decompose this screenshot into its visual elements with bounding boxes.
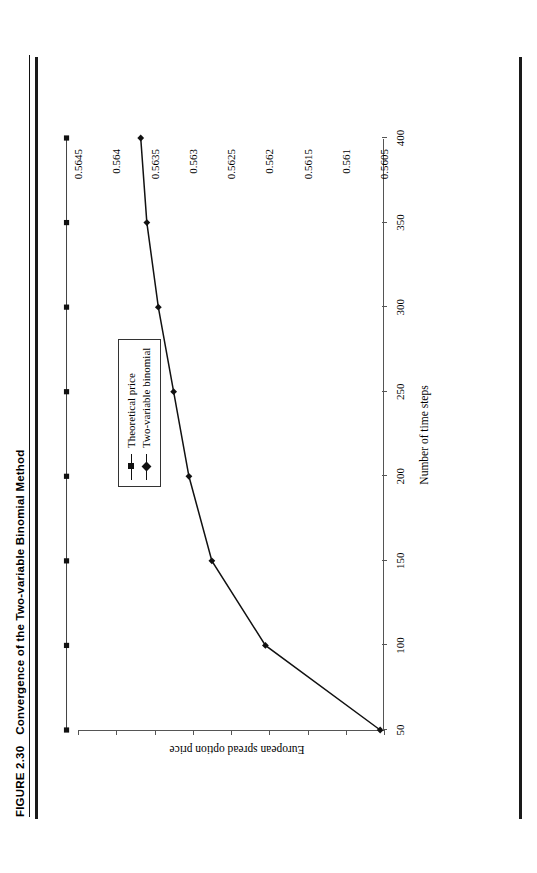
y-tick xyxy=(116,730,117,735)
legend-item: Two-variable binomial xyxy=(139,348,154,480)
y-tick xyxy=(78,730,79,735)
y-tick xyxy=(269,730,270,735)
data-point-diamond xyxy=(186,473,193,480)
data-point-square xyxy=(64,389,69,394)
y-tick xyxy=(231,730,232,735)
data-point-square xyxy=(64,643,69,648)
x-tick xyxy=(382,391,387,392)
data-point-diamond xyxy=(143,219,150,226)
legend-label: Two-variable binomial xyxy=(139,348,154,448)
y-tick-label: 0.5625 xyxy=(225,149,237,179)
page-rule-right xyxy=(519,57,522,819)
square-marker-icon xyxy=(127,454,137,480)
data-point-diamond xyxy=(155,304,162,311)
figure-container: FIGURE 2.30 Convergence of the Two-varia… xyxy=(0,55,452,817)
x-tick-label: 400 xyxy=(394,130,406,147)
x-tick xyxy=(382,137,387,138)
y-tick-label: 0.5645 xyxy=(72,149,84,179)
y-tick xyxy=(193,730,194,735)
y-tick-label: 0.564 xyxy=(110,149,122,174)
series-line-1 xyxy=(141,138,380,730)
data-point-diamond xyxy=(170,388,177,395)
data-point-square xyxy=(64,135,69,140)
y-tick xyxy=(384,730,385,735)
data-point-square xyxy=(64,558,69,563)
x-tick xyxy=(382,222,387,223)
figure-number: FIGURE 2.30 xyxy=(14,746,26,817)
x-axis-title: Number of time steps xyxy=(418,139,430,731)
legend-label: Theoretical price xyxy=(124,373,139,448)
x-tick-label: 250 xyxy=(394,383,406,400)
data-point-square xyxy=(64,727,69,732)
legend-item: Theoretical price xyxy=(124,348,139,480)
y-tick xyxy=(308,730,309,735)
data-point-square xyxy=(64,305,69,310)
x-tick xyxy=(382,475,387,476)
figure-caption: FIGURE 2.30 Convergence of the Two-varia… xyxy=(0,55,30,817)
x-tick xyxy=(382,306,387,307)
y-tick xyxy=(155,730,156,735)
diamond-marker-icon xyxy=(142,454,152,480)
data-point-square xyxy=(64,220,69,225)
x-tick xyxy=(382,644,387,645)
data-point-square xyxy=(64,474,69,479)
x-tick-label: 50 xyxy=(394,725,406,736)
y-tick-label: 0.5615 xyxy=(302,149,314,179)
x-tick xyxy=(382,560,387,561)
y-tick-label: 0.5605 xyxy=(378,149,390,179)
y-tick xyxy=(346,730,347,735)
y-axis-title: European spread option price xyxy=(84,744,390,756)
chart-legend: Theoretical priceTwo-variable binomial xyxy=(118,339,161,487)
x-tick-label: 200 xyxy=(394,468,406,485)
x-tick-label: 150 xyxy=(394,553,406,570)
x-tick-label: 350 xyxy=(394,214,406,231)
y-tick-label: 0.563 xyxy=(187,149,199,174)
data-point-diamond xyxy=(137,135,144,142)
x-tick-label: 100 xyxy=(394,637,406,654)
figure-title: Convergence of the Two-variable Binomial… xyxy=(14,450,26,735)
y-tick-label: 0.562 xyxy=(263,149,275,174)
x-tick-label: 300 xyxy=(394,299,406,316)
y-tick-label: 0.5635 xyxy=(149,149,161,179)
y-tick-label: 0.561 xyxy=(340,149,352,174)
